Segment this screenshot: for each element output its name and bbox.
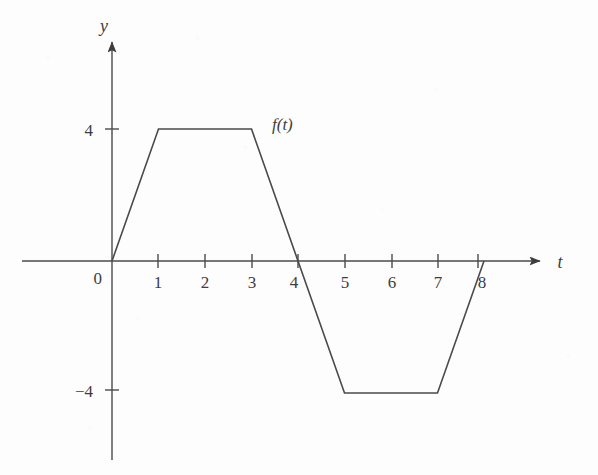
y-tick-label-neg4: −4	[75, 382, 94, 401]
curve-label-f-of-t: f(t)	[272, 115, 293, 134]
x-tick-label-1: 1	[154, 273, 163, 292]
axes	[22, 42, 540, 460]
y-axis-label: y	[98, 16, 108, 36]
function-graph-figure: y t 4 −4 0 1 2 3 4 5 6 7 8 f(t)	[0, 0, 598, 475]
x-tick-label-7: 7	[434, 273, 443, 292]
y-tick-label-4: 4	[85, 121, 94, 140]
x-tick-label-2: 2	[201, 273, 210, 292]
origin-label: 0	[94, 269, 103, 288]
x-axis-tick-labels: 1 2 3 4 5 6 7 8	[154, 273, 487, 292]
x-tick-label-5: 5	[341, 273, 350, 292]
x-axis-label: t	[557, 252, 563, 272]
x-tick-label-3: 3	[248, 273, 257, 292]
x-tick-label-6: 6	[388, 273, 397, 292]
x-tick-label-4: 4	[290, 273, 299, 292]
